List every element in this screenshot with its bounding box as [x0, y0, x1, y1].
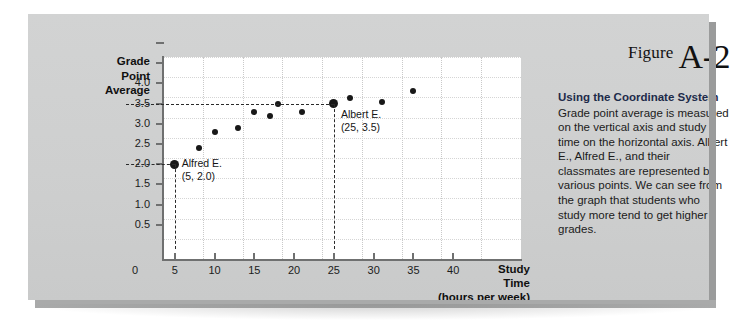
data-point: [299, 109, 305, 115]
y-axis-tick: [156, 42, 164, 44]
y-axis-tick: [156, 224, 164, 226]
annotation-leader-vertical: [334, 104, 335, 249]
y-axis-tick: [156, 204, 164, 206]
y-axis-tick-label: 1.0: [102, 198, 150, 210]
x-axis-tick: [333, 253, 335, 261]
x-axis-tick-label: 25: [319, 264, 349, 276]
x-axis-tick: [412, 253, 414, 261]
figure-panel: Grade Point Average 0.51.01.52.02.53.03.…: [28, 14, 709, 300]
data-point: [347, 95, 353, 101]
y-axis-tick-label: 4.0: [102, 76, 150, 88]
annotation-leader-vertical: [175, 164, 176, 249]
gridline-horizontal: [163, 138, 521, 139]
x-axis-title-line-2: Time: [380, 276, 530, 290]
y-axis-tick-label: 2.0: [102, 157, 150, 169]
x-axis-tick-label: 20: [279, 264, 309, 276]
annotation-leader-horizontal: [126, 104, 334, 105]
annotation-alfred: Alfred E. (5, 2.0): [182, 157, 222, 183]
y-axis-tick: [156, 123, 164, 125]
y-axis-tick: [156, 62, 164, 64]
data-point: [196, 145, 202, 151]
annotation-alfred-title: Alfred E.: [182, 157, 222, 170]
y-axis-tick-labels: 0.51.01.52.02.53.03.54.0: [102, 14, 150, 300]
panel-right-edge: [709, 22, 716, 308]
figure-heading: FigureA-2: [558, 38, 730, 76]
y-axis-tick-label: 3.0: [102, 117, 150, 129]
gridline-horizontal: [163, 57, 521, 58]
x-axis-tick: [174, 253, 176, 261]
y-axis-tick-label: 1.5: [102, 177, 150, 189]
annotation-albert-title: Albert E.: [341, 108, 381, 121]
x-axis-tick: [253, 253, 255, 261]
data-point: [212, 129, 218, 135]
x-axis-title-line-1: Study: [380, 262, 530, 276]
y-axis-tick-label: 3.5: [102, 97, 150, 109]
gridline-horizontal: [163, 198, 521, 199]
y-axis-tick: [156, 82, 164, 84]
figure-label-word: Figure: [628, 43, 674, 62]
x-axis-tick: [214, 253, 216, 261]
x-axis-tick: [452, 253, 454, 261]
x-axis-title: Study Time (hours per week): [380, 262, 530, 304]
data-point: [251, 109, 257, 115]
figure-number: A-2: [679, 38, 730, 75]
panel-shadow: [34, 304, 718, 320]
annotation-albert-coords: (25, 3.5): [341, 121, 381, 134]
y-axis-tick: [156, 183, 164, 185]
x-axis-tick-label: 10: [200, 264, 230, 276]
data-point: [267, 113, 273, 119]
x-axis-tick: [293, 253, 295, 261]
gridline-horizontal: [163, 219, 521, 220]
x-axis-line: [162, 259, 522, 261]
gridline-horizontal: [163, 77, 521, 78]
y-axis-tick-label: 0.5: [102, 218, 150, 230]
caption-title: Using the Coordinate System: [558, 90, 730, 105]
gridline-horizontal: [163, 239, 521, 240]
y-axis-tick-label: 2.5: [102, 137, 150, 149]
y-axis-tick: [156, 143, 164, 145]
x-axis-tick-label: 0: [120, 264, 150, 276]
x-axis-tick: [373, 253, 375, 261]
gridline-horizontal: [163, 97, 521, 98]
annotation-alfred-coords: (5, 2.0): [182, 170, 222, 183]
y-axis-line: [162, 56, 164, 261]
caption-body: Grade point average is measured on the v…: [558, 106, 730, 237]
x-axis-tick-label: 15: [239, 264, 269, 276]
annotation-albert: Albert E. (25, 3.5): [341, 108, 381, 134]
x-axis-tick-label: 5: [160, 264, 190, 276]
annotation-leader-horizontal: [126, 164, 175, 165]
caption-column: FigureA-2 Using the Coordinate System Gr…: [558, 38, 730, 237]
data-point: [379, 99, 385, 105]
